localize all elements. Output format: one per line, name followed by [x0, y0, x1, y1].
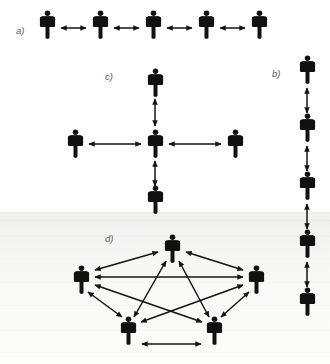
- panel-b-label: b): [272, 68, 280, 79]
- figure-canvas: a) b): [0, 0, 330, 364]
- network-topology-figure: a) b): [0, 0, 330, 364]
- panel-a-label: a): [16, 25, 24, 36]
- scan-texture-overlay: [0, 212, 330, 364]
- panel-c-label: c): [105, 71, 113, 82]
- panel-d-label: d): [105, 233, 113, 244]
